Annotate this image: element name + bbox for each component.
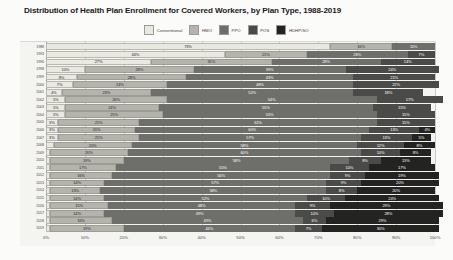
bar-segment-ppo[interactable]: 28% <box>272 59 381 66</box>
bar-segment-ppo[interactable]: 61% <box>139 119 376 126</box>
legend-item-ppo[interactable]: PPO <box>219 25 241 35</box>
legend-item-pos[interactable]: POS <box>248 25 270 35</box>
bar-segment-ppo[interactable]: 44% <box>124 225 295 232</box>
bar-segment-hdhp-so[interactable]: 24% <box>345 195 438 202</box>
bar-segment-pos[interactable]: 9% <box>295 202 330 209</box>
bar-segment-ppo[interactable]: 26% <box>307 51 408 58</box>
bar-segment-hdhp-so[interactable]: 8% <box>400 149 431 156</box>
bar-segment-hmo[interactable]: 21% <box>58 134 140 141</box>
bar-segment-hmo[interactable]: 20% <box>54 142 132 149</box>
bar-segment-ppo[interactable]: 58% <box>124 157 350 164</box>
bar-segment-pos[interactable]: 7% <box>295 225 322 232</box>
bar-segment-hmo[interactable]: 28% <box>77 74 186 81</box>
bar-segment-ppo[interactable]: 49% <box>104 210 295 217</box>
bar-segment-hdhp-so[interactable]: 29% <box>330 202 443 209</box>
bar-segment-pos[interactable]: 10% <box>330 164 369 171</box>
bar-segment-hdhp-so[interactable]: 13% <box>381 157 432 164</box>
bar-segment-pos[interactable]: 24% <box>346 66 439 73</box>
bar-segment-hmo[interactable]: 14% <box>50 210 104 217</box>
bar-segment-ppo[interactable]: 49% <box>112 217 303 224</box>
bar-segment-pos[interactable]: 8% <box>349 157 380 164</box>
bar-segment-pos[interactable]: 15% <box>373 104 431 111</box>
bar-segment-hmo[interactable]: 15% <box>50 202 108 209</box>
bar-segment-ppo[interactable]: 57% <box>104 180 326 187</box>
bar-segment-ppo[interactable]: 48% <box>167 81 354 88</box>
bar-segment-pos[interactable]: 10% <box>307 195 346 202</box>
bar-segment-pos[interactable]: 21% <box>353 74 435 81</box>
bar-segment-pos[interactable]: 15% <box>377 119 435 126</box>
bar-segment-conventional[interactable]: 4% <box>46 89 62 96</box>
bar-segment-ppo[interactable]: 39% <box>194 66 346 73</box>
bar-segment-pos[interactable]: 15% <box>377 111 435 118</box>
bar-segment-hmo[interactable]: 13% <box>50 187 101 194</box>
bar-segment-hdhp-so[interactable]: 5% <box>412 134 431 141</box>
bar-segment-pos[interactable]: 8% <box>326 187 357 194</box>
bar-segment-ppo[interactable]: 43% <box>186 74 353 81</box>
bar-segment-ppo[interactable]: 55% <box>116 164 330 171</box>
bar-segment-ppo[interactable]: 55% <box>159 104 373 111</box>
bar-segment-ppo[interactable]: 52% <box>151 89 353 96</box>
legend-item-hdhp-so[interactable]: HDHP/SO <box>276 25 308 35</box>
bar-segment-hdhp-so[interactable]: 8% <box>404 142 435 149</box>
bar-segment-conventional[interactable] <box>46 142 54 149</box>
bar-segment-conventional[interactable]: 3% <box>46 127 58 134</box>
bar-segment-ppo[interactable]: 56% <box>112 172 330 179</box>
bar-segment-hmo[interactable]: 14% <box>50 180 104 187</box>
bar-segment-ppo[interactable]: 54% <box>167 96 377 103</box>
bar-segment-hmo[interactable]: 20% <box>50 149 128 156</box>
bar-segment-pos[interactable]: 7% <box>408 51 435 58</box>
bar-segment-conventional[interactable]: 73% <box>46 43 330 50</box>
bar-segment-hdhp-so[interactable]: 30% <box>322 225 439 232</box>
bar-segment-hmo[interactable]: 17% <box>50 164 116 171</box>
bar-segment-conventional[interactable]: 3% <box>46 134 58 141</box>
bar-segment-pos[interactable]: 6% <box>303 217 326 224</box>
bar-segment-pos[interactable]: 13% <box>361 134 412 141</box>
bar-segment-hmo[interactable]: 28% <box>85 66 194 73</box>
bar-segment-ppo[interactable]: 58% <box>132 142 358 149</box>
bar-segment-pos[interactable]: 14% <box>381 59 435 66</box>
bar-segment-ppo[interactable]: 57% <box>139 134 361 141</box>
bar-segment-pos[interactable]: 18% <box>353 89 423 96</box>
legend-item-hmo[interactable]: HMO <box>189 25 212 35</box>
legend-item-conventional[interactable]: Conventional <box>144 25 182 35</box>
bar-segment-hdhp-so[interactable]: 4% <box>419 127 435 134</box>
bar-segment-conventional[interactable]: 5% <box>46 104 65 111</box>
bar-segment-pos[interactable]: 10% <box>295 210 334 217</box>
bar-segment-ppo[interactable]: 55% <box>163 111 377 118</box>
bar-segment-conventional[interactable]: 10% <box>46 66 85 73</box>
bar-segment-hdhp-so[interactable]: 17% <box>369 164 435 171</box>
bar-segment-ppo[interactable]: 60% <box>128 149 361 156</box>
bar-segment-conventional[interactable]: 3% <box>46 119 58 126</box>
bar-segment-hdhp-so[interactable]: 20% <box>361 180 439 187</box>
bar-segment-hmo[interactable]: 19% <box>50 157 124 164</box>
bar-segment-hdhp-so[interactable]: 28% <box>334 210 443 217</box>
bar-segment-hmo[interactable]: 21% <box>225 51 307 58</box>
bar-segment-pos[interactable]: 9% <box>330 172 365 179</box>
bar-segment-ppo[interactable]: 60% <box>135 127 368 134</box>
bar-segment-ppo[interactable]: 11% <box>392 43 435 50</box>
bar-segment-pos[interactable]: 10% <box>361 149 400 156</box>
bar-segment-conventional[interactable]: 27% <box>46 59 151 66</box>
bar-segment-hdhp-so[interactable]: 20% <box>357 187 435 194</box>
bar-segment-pos[interactable]: 22% <box>353 81 439 88</box>
bar-segment-hmo[interactable]: 26% <box>65 96 166 103</box>
bar-segment-conventional[interactable]: 5% <box>46 111 65 118</box>
bar-segment-hmo[interactable]: 20% <box>58 127 136 134</box>
bar-segment-conventional[interactable]: 7% <box>46 81 73 88</box>
bar-segment-hmo[interactable]: 24% <box>65 104 158 111</box>
bar-segment-hmo[interactable]: 16% <box>50 217 112 224</box>
bar-segment-ppo[interactable]: 48% <box>108 202 295 209</box>
bar-segment-conventional[interactable]: 5% <box>46 96 65 103</box>
bar-segment-pos[interactable]: 12% <box>357 142 404 149</box>
bar-segment-conventional[interactable]: 8% <box>46 74 77 81</box>
bar-segment-hmo[interactable]: 23% <box>62 89 151 96</box>
bar-segment-hmo[interactable]: 19% <box>50 225 124 232</box>
bar-segment-hmo[interactable]: 25% <box>65 111 162 118</box>
bar-segment-hmo[interactable]: 31% <box>151 59 272 66</box>
bar-segment-hdhp-so[interactable]: 29% <box>326 217 439 224</box>
bar-segment-hdhp-so[interactable]: 19% <box>365 172 439 179</box>
bar-segment-pos[interactable]: 17% <box>377 96 443 103</box>
bar-segment-hmo[interactable]: 14% <box>50 195 104 202</box>
bar-segment-ppo[interactable]: 58% <box>100 187 326 194</box>
bar-segment-conventional[interactable]: 46% <box>46 51 225 58</box>
